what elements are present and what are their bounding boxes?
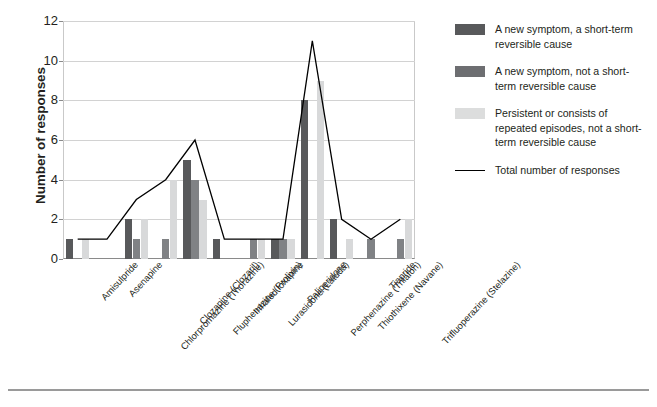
medium-gray-swatch (455, 66, 485, 77)
legend-item-label: Persistent or consists of repeated episo… (495, 106, 650, 150)
x-axis-tick-labels: AmisulprideAsenapineChlorpromazine (Thor… (63, 259, 415, 399)
y-axis-tick-mark (59, 21, 63, 22)
legend-item: A new symptom, not a short-term reversib… (455, 64, 650, 93)
x-axis-tick-label: Trifluoperazine (Stelazine) (440, 259, 522, 346)
x-axis-tick-label: Paliperidone (305, 259, 349, 305)
y-axis-tick-mark (59, 61, 63, 62)
y-axis-tick-label: 8 (16, 92, 58, 107)
y-axis-tick-label: 6 (16, 132, 58, 147)
legend-item: Total number of responses (455, 163, 650, 178)
plot-area (63, 21, 415, 259)
legend-item: A new symptom, a short-term reversible c… (455, 22, 650, 51)
y-axis-tick-label: 10 (16, 53, 58, 68)
y-axis-tick-label: 2 (16, 211, 58, 226)
footer-divider (8, 389, 649, 391)
total-line-series (63, 21, 415, 259)
y-axis-tick-mark (59, 100, 63, 101)
legend-item-label: A new symptom, not a short-term reversib… (495, 64, 650, 93)
legend-item-label: Total number of responses (495, 163, 620, 178)
legend-item: Persistent or consists of repeated episo… (455, 106, 650, 150)
y-axis-tick-label: 0 (16, 251, 58, 266)
dark-gray-swatch (455, 24, 485, 35)
legend-item-label: A new symptom, a short-term reversible c… (495, 22, 650, 51)
total-line-path (78, 41, 401, 239)
chart-legend: A new symptom, a short-term reversible c… (455, 22, 650, 190)
y-axis-tick-label: 4 (16, 172, 58, 187)
chart-figure: Number of responses 024681012 Amisulprid… (0, 0, 657, 407)
y-axis-tick-mark (59, 180, 63, 181)
y-axis-tick-label: 12 (16, 13, 58, 28)
y-axis-tick-mark (59, 140, 63, 141)
light-gray-swatch (455, 108, 485, 119)
y-axis-tick-mark (59, 219, 63, 220)
black-line-swatch (455, 165, 485, 176)
